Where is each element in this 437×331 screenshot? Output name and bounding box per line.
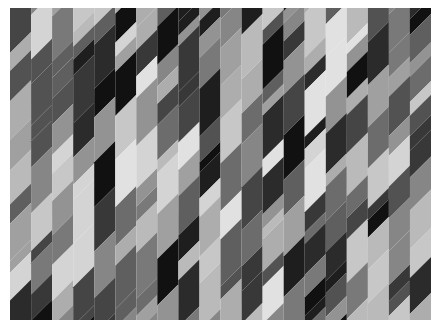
- diagonal-stripe-pattern: [10, 8, 431, 320]
- abstract-artwork: [0, 0, 437, 331]
